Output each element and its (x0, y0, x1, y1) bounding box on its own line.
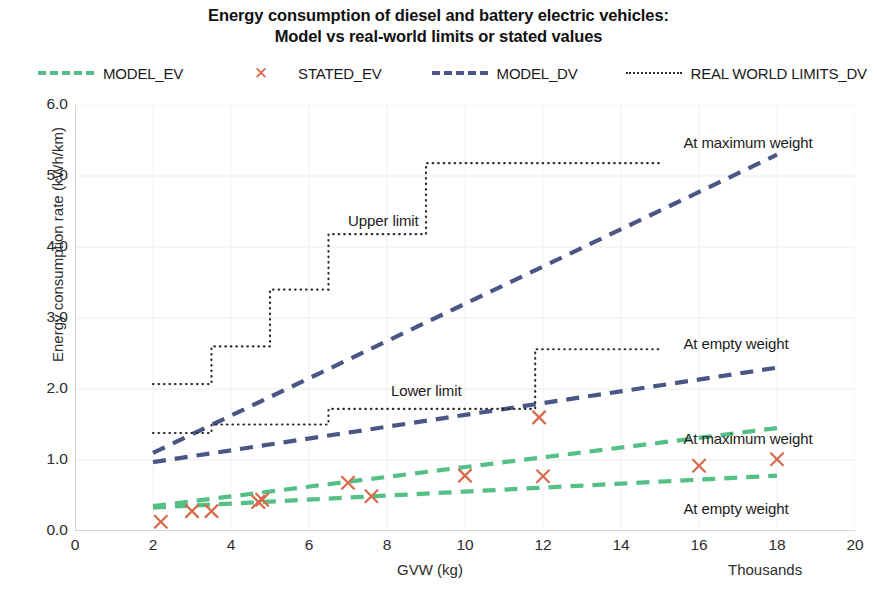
x-axis-tick: 14 (601, 536, 641, 554)
legend-item-model-dv[interactable]: MODEL_DV (430, 61, 578, 85)
dashed-line-icon (36, 65, 96, 81)
x-marker (206, 505, 218, 517)
legend-item-model-ev[interactable]: MODEL_EV (36, 61, 183, 85)
x-axis-unit-note: Thousands (728, 561, 858, 578)
plot-canvas (75, 105, 855, 531)
plot-area (75, 105, 855, 531)
chart-legend: MODEL_EV ✕ STATED_EV MODEL_DV REAL WORLD… (22, 61, 877, 85)
x-marker (186, 505, 198, 517)
plot-annotation: At maximum weight (683, 430, 812, 447)
x-marker (252, 496, 264, 508)
legend-label-real-world-limits-dv: REAL WORLD LIMITS_DV (691, 65, 867, 82)
x-axis-tick: 20 (835, 536, 875, 554)
legend-item-stated-ev[interactable]: ✕ STATED_EV (231, 61, 382, 85)
plot-annotation: At empty weight (683, 500, 788, 517)
x-axis-tick: 4 (211, 536, 251, 554)
x-axis-tick: 6 (289, 536, 329, 554)
x-axis-tick: 12 (523, 536, 563, 554)
x-marker-icon: ✕ (231, 65, 291, 81)
x-axis-tick: 18 (757, 536, 797, 554)
dashed-line-icon (430, 65, 490, 81)
dotted-line-icon (624, 65, 684, 81)
x-axis-tick: 16 (679, 536, 719, 554)
plot-annotation: At maximum weight (683, 134, 812, 151)
x-axis-title: GVW (kg) (330, 561, 530, 578)
y-axis-title: Energy consumption rate (kWh/km) (49, 100, 66, 390)
legend-label-model-dv: MODEL_DV (497, 65, 578, 82)
chart-title: Energy consumption of diesel and battery… (0, 5, 877, 47)
x-axis-tick: 8 (367, 536, 407, 554)
plot-annotation: Lower limit (391, 382, 462, 399)
y-axis-tick: 1.0 (16, 450, 68, 468)
series-real-world-limits-dv-upper-limit (153, 163, 660, 384)
x-axis-tick: 2 (133, 536, 173, 554)
plot-annotation: Upper limit (348, 212, 419, 229)
x-axis-tick: 0 (55, 536, 95, 554)
x-axis-tick: 10 (445, 536, 485, 554)
chart-figure: Energy consumption of diesel and battery… (0, 0, 877, 589)
legend-item-real-world-limits-dv[interactable]: REAL WORLD LIMITS_DV (624, 61, 867, 85)
legend-label-model-ev: MODEL_EV (103, 65, 183, 82)
x-axis-tick-labels: 02468101214161820 (75, 536, 875, 558)
x-marker-glyph: ✕ (254, 65, 268, 82)
x-marker (155, 516, 167, 528)
plot-annotation: At empty weight (683, 335, 788, 352)
legend-label-stated-ev: STATED_EV (298, 65, 382, 82)
chart-title-line-2: Model vs real-world limits or stated val… (0, 26, 877, 47)
chart-title-line-1: Energy consumption of diesel and battery… (0, 5, 877, 26)
